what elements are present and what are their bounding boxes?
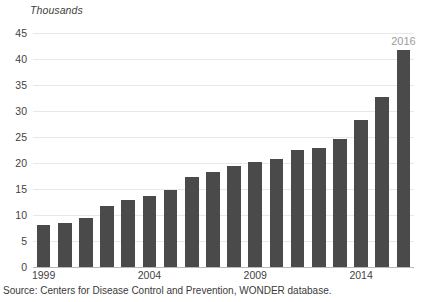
x-axis-tick-label: 2014 <box>349 269 372 281</box>
y-axis-tick-label: 30 <box>15 105 27 117</box>
bar <box>397 50 411 267</box>
y-axis-tick-label: 20 <box>15 157 27 169</box>
x-axis-tick-label: 2004 <box>138 269 161 281</box>
y-axis-tick-label: 15 <box>15 183 27 195</box>
y-axis-unit-label: Thousands <box>30 4 83 16</box>
bar <box>164 190 178 267</box>
bar <box>333 139 347 267</box>
y-axis-tick-label: 5 <box>21 235 27 247</box>
x-axis-line <box>33 267 414 268</box>
y-axis-tick-label: 40 <box>15 53 27 65</box>
bar <box>121 200 135 267</box>
bar <box>227 166 241 267</box>
bar <box>354 120 368 267</box>
bar <box>375 97 389 267</box>
bar <box>270 159 284 267</box>
chart-container: Thousands 051015202530354045 2016 199920… <box>0 0 423 302</box>
y-axis-tick-label: 0 <box>21 261 27 273</box>
plot-area: 2016 <box>33 33 414 267</box>
bar <box>100 206 114 267</box>
bar <box>248 162 262 267</box>
x-axis-tick-label: 1999 <box>32 269 55 281</box>
bar <box>58 223 72 267</box>
data-annotation-label: 2016 <box>391 35 415 47</box>
y-axis-tick-label: 35 <box>15 79 27 91</box>
bar <box>312 148 326 267</box>
bar <box>185 177 199 267</box>
y-axis-tick-labels: 051015202530354045 <box>0 33 31 267</box>
bar <box>37 225 51 267</box>
y-axis-tick-label: 10 <box>15 209 27 221</box>
y-axis-tick-label: 45 <box>15 27 27 39</box>
bar <box>206 172 220 267</box>
bar <box>291 150 305 267</box>
bar-series: 2016 <box>33 33 414 267</box>
bar <box>79 218 93 267</box>
bar <box>143 196 157 267</box>
source-note: Source: Centers for Disease Control and … <box>3 285 332 296</box>
x-axis-tick-labels: 1999200420092014 <box>33 269 414 285</box>
x-axis-tick-label: 2009 <box>244 269 267 281</box>
y-axis-tick-label: 25 <box>15 131 27 143</box>
